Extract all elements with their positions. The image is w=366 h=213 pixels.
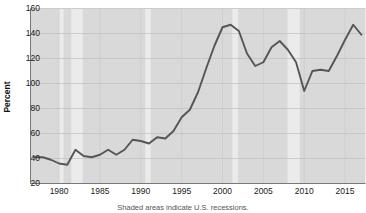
chart-container: 20406080100120140160 Percent 19801985199… bbox=[0, 0, 366, 213]
y-axis-tick-label: 120 bbox=[18, 54, 40, 62]
y-axis-tick-label: 140 bbox=[18, 29, 40, 37]
y-axis-tick-label: 100 bbox=[18, 79, 40, 87]
recession-band bbox=[287, 9, 299, 184]
x-axis-tick-label: 2000 bbox=[213, 186, 232, 196]
y-axis-tick-label: 60 bbox=[18, 129, 40, 137]
y-axis-label: Percent bbox=[0, 52, 14, 142]
x-axis-tick-label: 2005 bbox=[254, 186, 273, 196]
chart-caption: Shaded areas indicate U.S. recessions. bbox=[0, 203, 366, 212]
y-axis-tick-label: 80 bbox=[18, 104, 40, 112]
y-axis-tick-label: 40 bbox=[18, 154, 40, 162]
recession-band bbox=[59, 9, 63, 184]
x-axis-tick-label: 2010 bbox=[295, 186, 314, 196]
x-axis-tick-label: 1990 bbox=[131, 186, 150, 196]
recession-band bbox=[71, 9, 82, 184]
x-axis-tick-label: 2015 bbox=[336, 186, 355, 196]
y-axis-label-text: Percent bbox=[2, 81, 12, 112]
x-axis-tick-label: 1980 bbox=[50, 186, 69, 196]
x-axis-tick-label: 1985 bbox=[90, 186, 109, 196]
x-axis-tick-label: 1995 bbox=[172, 186, 191, 196]
line-chart-plot bbox=[0, 0, 366, 213]
recession-band bbox=[145, 9, 150, 184]
x-axis-ticks: 19801985199019952000200520102015 bbox=[0, 186, 366, 198]
recession-band bbox=[232, 9, 238, 184]
y-axis-tick-label: 160 bbox=[18, 4, 40, 12]
